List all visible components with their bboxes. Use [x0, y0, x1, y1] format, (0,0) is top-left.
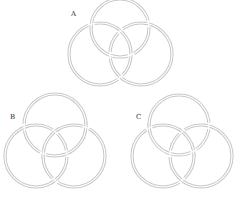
- figure-label-c: C: [136, 114, 141, 121]
- figure-b: [5, 94, 105, 187]
- rings-canvas: [0, 0, 242, 197]
- ring-core: [110, 23, 172, 85]
- figure-a: [69, 0, 172, 85]
- figure-label-a: A: [71, 11, 76, 18]
- ring-core: [69, 23, 131, 85]
- three-ring-figures: A B C: [0, 0, 242, 197]
- figure-label-b: B: [10, 114, 15, 121]
- figure-c: [132, 95, 232, 187]
